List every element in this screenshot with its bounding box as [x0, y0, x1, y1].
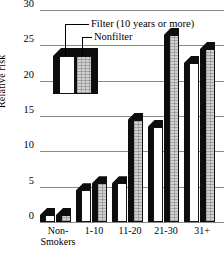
bar	[164, 28, 179, 222]
y-tick-0: 0	[0, 211, 34, 221]
bar	[112, 176, 127, 222]
bar-face-nonfilter	[133, 120, 143, 222]
legend-sample-box	[53, 48, 98, 94]
legend-leader-filter-vertical	[65, 24, 66, 56]
legend-swatch-filter	[59, 56, 75, 94]
bar-face-filter	[153, 127, 163, 222]
y-tick-10: 10	[0, 140, 34, 150]
bar-group	[148, 10, 184, 222]
bar-face-nonfilter	[169, 35, 179, 222]
bar-face-nonfilter	[205, 49, 215, 222]
bar	[40, 208, 55, 222]
y-tick-20: 20	[0, 70, 34, 80]
bar	[148, 120, 163, 222]
bar	[200, 42, 215, 222]
bar-group	[184, 10, 220, 222]
bar-face-nonfilter	[97, 183, 107, 222]
x-tick-line: Smokers	[32, 236, 84, 247]
relative-risk-bar-chart: Relative risk 051015202530 Non-Smokers1-…	[0, 0, 224, 258]
x-tick-31-: 31+	[176, 225, 224, 236]
legend-leader-nonfilter-horizontal	[82, 37, 92, 38]
y-tick-15: 15	[0, 105, 34, 115]
bar-face-filter	[81, 190, 91, 222]
bar-group	[40, 10, 76, 222]
legend-leader-nonfilter-vertical	[82, 37, 83, 56]
x-tick-line: 31+	[176, 225, 224, 236]
bar	[128, 113, 143, 222]
y-axis-title: Relative risk	[0, 55, 7, 108]
gridline-0	[40, 222, 224, 223]
bar-face-filter	[117, 183, 127, 222]
bar	[76, 183, 91, 222]
bar	[92, 176, 107, 222]
y-tick-5: 5	[0, 176, 34, 186]
bar-face-filter	[45, 215, 55, 222]
legend-label-nonfilter: Nonfilter	[94, 31, 133, 42]
y-tick-25: 25	[0, 34, 34, 44]
legend-swatch-nonfilter	[76, 56, 92, 94]
bar-face-filter	[189, 63, 199, 222]
bar	[184, 56, 199, 222]
legend-leader-filter-horizontal	[65, 24, 89, 25]
bar-face-nonfilter	[61, 215, 71, 222]
bar	[56, 208, 71, 222]
y-tick-30: 30	[0, 0, 34, 9]
